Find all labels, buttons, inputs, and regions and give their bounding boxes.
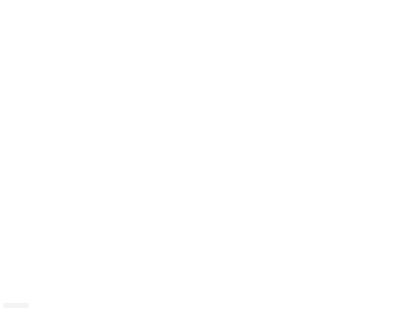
chart-figure [0, 0, 411, 312]
line-chart-plot [0, 0, 411, 312]
footer-artifact [3, 303, 29, 308]
